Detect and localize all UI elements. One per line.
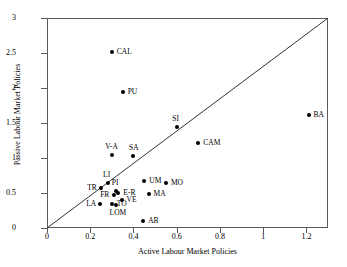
scatter-chart: 00.511.522.53 00.20.40.60.811.2 CALPUBAS… (0, 0, 347, 267)
y-tick-label: 3 (0, 14, 16, 22)
x-tick-label: 0.8 (205, 233, 235, 241)
x-tick-mark (306, 228, 307, 233)
data-point-label: MA (154, 190, 166, 198)
data-point-marker (307, 113, 311, 117)
x-tick-mark (133, 228, 134, 233)
data-point-label: MO (171, 179, 183, 187)
y-tick-mark (41, 18, 47, 19)
data-point-label: PI (112, 179, 119, 187)
data-point-label: FR (100, 191, 109, 199)
data-point-label: TO (117, 200, 127, 208)
data-point-marker (196, 141, 200, 145)
x-axis-title: Active Labour Market Policies (47, 247, 328, 256)
x-tick-label: 1.2 (291, 233, 321, 241)
data-point-marker (147, 192, 151, 196)
data-point-label: TR (87, 184, 97, 192)
x-tick-label: 0.4 (118, 233, 148, 241)
data-point-label: PU (128, 88, 138, 96)
data-point-marker (106, 181, 110, 185)
data-point-label: UM (149, 177, 161, 185)
x-tick-mark (90, 228, 91, 233)
plot-area (47, 18, 328, 228)
data-point-label: CAM (203, 139, 220, 147)
data-point-label: LA (86, 200, 96, 208)
y-tick-label: 0.5 (0, 189, 16, 197)
data-point-marker (121, 90, 125, 94)
data-point-label: VE (127, 196, 137, 204)
x-tick-mark (177, 228, 178, 233)
x-tick-mark (220, 228, 221, 233)
data-point-marker (98, 202, 102, 206)
data-point-label: CAL (117, 48, 132, 56)
x-tick-mark (47, 228, 48, 233)
x-tick-label: 0.6 (162, 233, 192, 241)
y-tick-mark (41, 193, 47, 194)
data-point-label: LI (103, 171, 110, 179)
x-tick-mark (263, 228, 264, 233)
data-point-marker (175, 125, 179, 129)
y-tick-mark (41, 88, 47, 89)
y-tick-mark (41, 123, 47, 124)
y-tick-mark (41, 53, 47, 54)
data-point-label: LOM (110, 209, 127, 217)
data-point-label: BA (314, 111, 324, 119)
x-tick-label: 0.2 (75, 233, 105, 241)
x-tick-label: 1 (248, 233, 278, 241)
data-point-label: V-A (105, 143, 118, 151)
data-point-label: SA (129, 144, 139, 152)
y-tick-label: 0 (0, 224, 16, 232)
y-axis-title: Passive Labour Market Policies (13, 40, 22, 190)
x-tick-label: 0 (32, 233, 62, 241)
data-point-label: SI (172, 115, 179, 123)
data-point-label: AB (148, 217, 158, 225)
y-tick-mark (41, 158, 47, 159)
